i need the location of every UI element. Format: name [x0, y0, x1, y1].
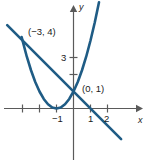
x-tick-label-1: 1 [88, 114, 93, 124]
x-tick-label-2: 2 [104, 114, 109, 124]
graph-figure: −1 1 2 3 x y (−3, 4) (0, 1) [0, 0, 150, 163]
y-axis-label: y [79, 3, 84, 12]
point-label-neg3-4: (−3, 4) [28, 27, 56, 37]
x-axis-label: x [138, 116, 143, 125]
point-label-0-1: (0, 1) [82, 84, 104, 94]
y-axis [70, 5, 77, 160]
x-tick-label-neg1: −1 [52, 114, 63, 124]
coordinate-plane [0, 0, 150, 163]
y-tick-label-3: 3 [61, 53, 66, 63]
